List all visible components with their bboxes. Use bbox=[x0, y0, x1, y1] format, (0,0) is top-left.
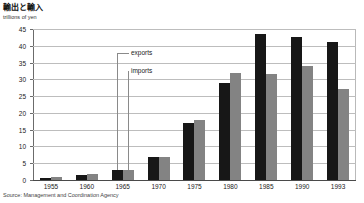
y-axis-tick-mark bbox=[30, 63, 33, 64]
y-axis-tick-mark bbox=[30, 79, 33, 80]
y-axis-tick-mark bbox=[30, 180, 33, 181]
y-axis-tick-label: 30 bbox=[0, 76, 26, 83]
y-axis-tick-label: 35 bbox=[0, 59, 26, 66]
bar-exports-1980 bbox=[219, 83, 230, 180]
bar-group bbox=[320, 29, 356, 180]
x-axis-tick-label: 1975 bbox=[187, 183, 201, 190]
y-axis-tick-mark bbox=[30, 146, 33, 147]
y-axis-tick-mark bbox=[30, 46, 33, 47]
bar-exports-1993 bbox=[327, 42, 338, 180]
bar-imports-1993 bbox=[338, 89, 349, 180]
bar-exports-1990 bbox=[291, 37, 302, 180]
y-axis-tick-label: 5 bbox=[0, 160, 26, 167]
y-axis-tick-label: 45 bbox=[0, 26, 26, 33]
bar-group bbox=[69, 29, 105, 180]
bar-group bbox=[248, 29, 284, 180]
y-axis-unit-label: trillions of yen bbox=[3, 14, 37, 20]
legend-label-exports: exports bbox=[131, 49, 152, 56]
bar-group bbox=[177, 29, 213, 180]
bar-imports-1975 bbox=[194, 120, 205, 180]
y-axis-tick-label: 40 bbox=[0, 42, 26, 49]
y-axis-tick-label: 10 bbox=[0, 143, 26, 150]
y-axis-tick-mark bbox=[30, 113, 33, 114]
x-axis-tick-label: 1965 bbox=[115, 183, 129, 190]
bar-imports-1990 bbox=[302, 66, 313, 180]
x-axis-tick-label: 1993 bbox=[331, 183, 345, 190]
y-axis-tick-mark bbox=[30, 29, 33, 30]
bar-exports-1965 bbox=[112, 170, 123, 180]
x-axis-line bbox=[31, 180, 356, 181]
x-axis-tick-label: 1970 bbox=[151, 183, 165, 190]
bar-imports-1980 bbox=[230, 73, 241, 180]
y-axis-tick-label: 0 bbox=[0, 177, 26, 184]
bar-group bbox=[284, 29, 320, 180]
bar-group bbox=[212, 29, 248, 180]
x-axis-tick-label: 1985 bbox=[259, 183, 273, 190]
bar-imports-1965 bbox=[123, 170, 134, 180]
bar-imports-1985 bbox=[266, 74, 277, 180]
y-axis-tick-mark bbox=[30, 130, 33, 131]
callout-leader-line bbox=[128, 71, 129, 72]
bars-layer bbox=[33, 29, 356, 180]
chart-title: 輸出と輸入 bbox=[3, 1, 43, 12]
x-axis-tick-label: 1960 bbox=[80, 183, 94, 190]
bar-exports-1975 bbox=[183, 123, 194, 180]
y-axis-tick-mark bbox=[30, 96, 33, 97]
bar-group bbox=[33, 29, 69, 180]
y-axis-tick-label: 20 bbox=[0, 109, 26, 116]
plot-area bbox=[33, 29, 356, 180]
legend-label-imports: imports bbox=[131, 67, 152, 74]
y-axis-tick-label: 25 bbox=[0, 93, 26, 100]
x-axis-tick-label: 1980 bbox=[223, 183, 237, 190]
callout-leader-line bbox=[128, 71, 129, 170]
x-axis-tick-label: 1955 bbox=[44, 183, 58, 190]
source-note: Source: Management and Coordination Agen… bbox=[3, 192, 119, 198]
bar-imports-1970 bbox=[159, 157, 170, 180]
callout-leader-line bbox=[117, 53, 118, 170]
y-axis-tick-label: 15 bbox=[0, 126, 26, 133]
y-axis-tick-mark bbox=[30, 163, 33, 164]
x-axis-tick-label: 1990 bbox=[295, 183, 309, 190]
callout-leader-line bbox=[117, 53, 129, 54]
bar-exports-1970 bbox=[148, 157, 159, 180]
chart-container: 輸出と輸入 trillions of yen 05101520253035404… bbox=[0, 0, 364, 203]
bar-exports-1985 bbox=[255, 34, 266, 180]
